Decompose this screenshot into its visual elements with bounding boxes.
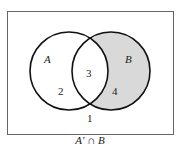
- region-4-label: 4: [112, 85, 118, 97]
- region-1-label: 1: [87, 112, 93, 124]
- region-2-label: 2: [58, 85, 64, 97]
- set-a-label: A: [43, 53, 51, 65]
- set-b-label: B: [125, 53, 132, 65]
- region-3-label: 3: [86, 67, 92, 79]
- diagram-caption: A′ ∩ B: [0, 134, 180, 146]
- venn-diagram: A B 3 2 4 1: [0, 0, 180, 149]
